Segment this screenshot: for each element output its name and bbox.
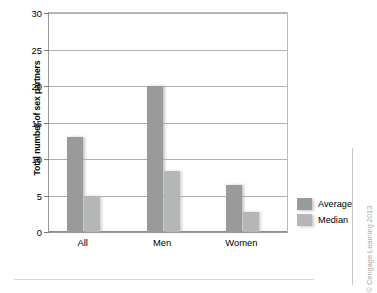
bar-women-average [226, 185, 242, 232]
page-bleed-rule [14, 279, 314, 280]
bar-men-average [147, 86, 163, 232]
y-tick-label: 0 [37, 227, 42, 238]
copyright-credit: © Cengage Learning 2013 [365, 153, 374, 293]
x-tick-label-men: Men [153, 237, 171, 248]
y-tick-mark [44, 159, 49, 160]
credit-divider [352, 148, 353, 285]
y-tick-mark [44, 196, 49, 197]
y-tick-label: 25 [32, 44, 42, 55]
legend-swatch-average [297, 198, 312, 210]
legend-label-median: Median [318, 215, 348, 225]
legend-item-median: Median [297, 212, 371, 228]
y-tick-mark [44, 232, 49, 233]
bars-layer [49, 13, 287, 232]
x-tick-label-all: All [77, 237, 87, 248]
bar-all-median [84, 196, 100, 233]
bar-women-median [243, 212, 259, 232]
y-tick-label: 20 [32, 81, 42, 92]
legend-swatch-median [297, 214, 312, 226]
y-tick-mark [44, 50, 49, 51]
legend-label-average: Average [318, 199, 352, 209]
y-tick-label: 30 [32, 8, 42, 19]
legend-item-average: Average [297, 196, 371, 212]
y-tick-mark [44, 86, 49, 87]
y-tick-label: 5 [37, 190, 42, 201]
y-tick-mark [44, 123, 49, 124]
bar-men-median [164, 171, 180, 232]
plot-area: 051015202530 [48, 12, 288, 233]
y-tick-mark [44, 13, 49, 14]
chart-legend: AverageMedian [297, 196, 371, 228]
bar-all-average [67, 137, 83, 232]
y-tick-label: 15 [32, 117, 42, 128]
x-tick-label-women: Women [225, 237, 257, 248]
y-tick-label: 10 [32, 154, 42, 165]
